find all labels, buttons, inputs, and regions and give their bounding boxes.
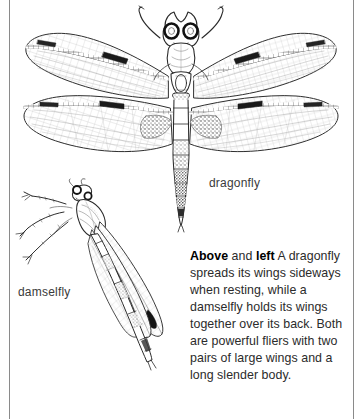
label-dragonfly: dragonfly: [209, 176, 260, 190]
caption-bold-left: left: [256, 249, 275, 263]
caption-body: A dragonfly spreads its wings sideways w…: [190, 249, 342, 382]
illustration-page: dragonfly damselfly Above and left A dra…: [0, 0, 363, 419]
caption-text: Above and left A dragonfly spreads its w…: [190, 248, 348, 384]
label-damselfly: damselfly: [18, 285, 70, 299]
caption-conjunction: and: [228, 249, 256, 263]
damselfly-illustration: [10, 178, 185, 378]
page-rule-right: [353, 0, 354, 419]
caption-bold-above: Above: [190, 249, 228, 263]
